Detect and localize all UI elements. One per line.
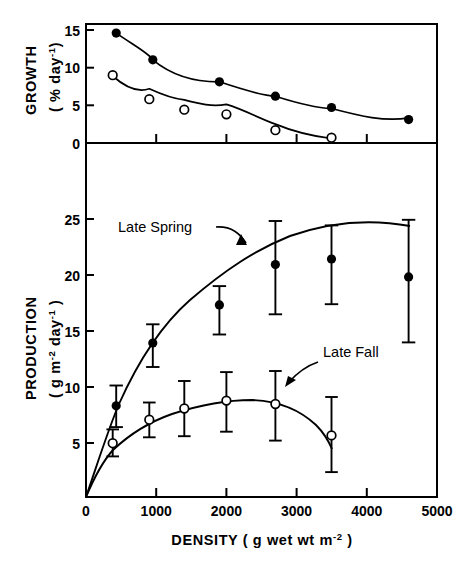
late-spring-errorbars bbox=[110, 220, 416, 427]
data-point bbox=[327, 254, 336, 263]
data-point bbox=[327, 133, 336, 142]
data-point bbox=[327, 431, 336, 440]
top-y-ticklabel-15: 15 bbox=[64, 23, 80, 39]
production-unit-mid: day bbox=[47, 319, 63, 350]
data-point bbox=[180, 404, 189, 413]
bottom-y-ticklabel-5: 5 bbox=[72, 436, 80, 452]
top-y-ticklabel-5: 5 bbox=[72, 98, 80, 114]
data-point bbox=[271, 92, 280, 101]
x-axis-title: DENSITY ( g wet wt m-2 ) bbox=[171, 531, 352, 548]
x-ticklabels: 0 1000 2000 3000 4000 5000 bbox=[82, 503, 453, 519]
top-panel-frame bbox=[86, 24, 437, 143]
late-fall-label: Late Fall bbox=[323, 344, 379, 360]
x-axis-title-suffix: ) bbox=[343, 532, 353, 548]
data-point bbox=[112, 28, 121, 37]
data-point bbox=[148, 55, 157, 64]
production-unit-exp1: -2 bbox=[46, 351, 57, 361]
x-ticklabel-5000: 5000 bbox=[421, 503, 452, 519]
svg-text:( g m-2 day-1 ): ( g m-2 day-1 ) bbox=[46, 300, 63, 398]
bottom-y-ticklabel-10: 10 bbox=[64, 380, 80, 396]
growth-title-line1: GROWTH bbox=[23, 45, 39, 115]
top-y-ticklabel-10: 10 bbox=[64, 60, 80, 76]
data-point bbox=[112, 401, 121, 410]
bottom-y-ticklabel-20: 20 bbox=[64, 268, 80, 284]
data-point bbox=[222, 396, 231, 405]
top-y-ticks bbox=[86, 30, 94, 143]
bottom-y-ticklabel-25: 25 bbox=[64, 212, 80, 228]
data-point bbox=[148, 338, 157, 347]
data-point bbox=[222, 110, 231, 119]
late-fall-arrow bbox=[285, 362, 318, 387]
data-point bbox=[327, 103, 336, 112]
data-point bbox=[145, 95, 154, 104]
data-point bbox=[271, 400, 280, 409]
bottom-y-axis-title: PRODUCTION ( g m-2 day-1 ) bbox=[23, 297, 63, 400]
x-ticklabel-2000: 2000 bbox=[211, 503, 242, 519]
data-point bbox=[215, 300, 224, 309]
late-fall-errorbars bbox=[106, 371, 337, 472]
x-ticklabel-0: 0 bbox=[82, 503, 90, 519]
top-y-ticklabel-0: 0 bbox=[72, 136, 80, 152]
data-point bbox=[404, 272, 413, 281]
top-y-axis-title: GROWTH ( % day-1) bbox=[23, 42, 63, 115]
svg-text:( % day-1): ( % day-1) bbox=[46, 42, 63, 112]
data-point bbox=[215, 77, 224, 86]
production-unit-prefix: ( g m bbox=[47, 360, 63, 398]
late-spring-arrow bbox=[216, 227, 247, 245]
x-ticklabel-1000: 1000 bbox=[141, 503, 172, 519]
growth-title-line2: ( % day-1) bbox=[46, 42, 63, 112]
x-axis-title-exp: -2 bbox=[333, 531, 343, 542]
bottom-x-ticks bbox=[86, 488, 437, 497]
growth-late-spring-curve bbox=[116, 33, 408, 119]
data-point bbox=[108, 439, 117, 448]
growth-late-spring-points bbox=[112, 28, 414, 124]
late-spring-label: Late Spring bbox=[118, 219, 192, 235]
x-ticklabel-4000: 4000 bbox=[351, 503, 382, 519]
bottom-y-ticklabel-15: 15 bbox=[64, 324, 80, 340]
bottom-panel-frame bbox=[86, 143, 437, 497]
x-axis-title-prefix: DENSITY ( g wet wt m bbox=[171, 532, 333, 548]
production-title-line1: PRODUCTION bbox=[23, 297, 39, 400]
growth-unit-day: day bbox=[47, 57, 63, 84]
data-point bbox=[271, 126, 280, 135]
data-point bbox=[108, 71, 117, 80]
production-late-spring-points bbox=[112, 254, 414, 410]
data-point bbox=[145, 415, 154, 424]
data-point bbox=[180, 105, 189, 114]
x-ticklabel-3000: 3000 bbox=[281, 503, 312, 519]
figure-container: 15 10 5 0 GROWTH ( % day-1) bbox=[0, 0, 469, 562]
production-unit-suffix: ) bbox=[47, 300, 63, 310]
top-panel-curves bbox=[113, 33, 409, 138]
chart-svg: 15 10 5 0 GROWTH ( % day-1) bbox=[0, 0, 469, 562]
growth-unit-suffix: ) bbox=[47, 42, 63, 47]
data-point bbox=[404, 115, 413, 124]
production-late-fall-points bbox=[108, 396, 335, 447]
production-title-line2: ( g m-2 day-1 ) bbox=[46, 300, 63, 398]
production-unit-exp2: -1 bbox=[46, 310, 57, 320]
growth-unit-prefix: ( % bbox=[47, 88, 63, 112]
data-point bbox=[271, 260, 280, 269]
top-y-ticklabels: 15 10 5 0 bbox=[64, 23, 80, 152]
bottom-y-ticklabels: 25 20 15 10 5 bbox=[64, 212, 80, 452]
growth-unit-exp: -1 bbox=[46, 47, 57, 57]
bottom-y-ticks bbox=[86, 219, 94, 443]
production-late-fall-curve bbox=[86, 400, 332, 497]
